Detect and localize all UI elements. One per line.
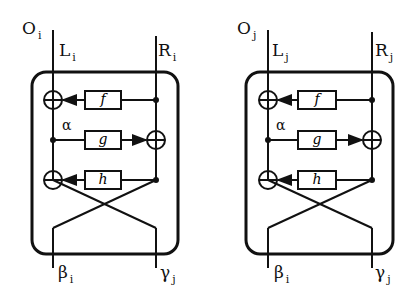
f-box-i: f [80, 91, 126, 107]
alpha-label-j: α [276, 117, 285, 133]
left-output-label-i: βi [58, 262, 73, 286]
right-output-label-j: γj [375, 262, 391, 286]
right-input-label-i: Ri [158, 40, 176, 64]
right-output-label-i: γj [160, 262, 176, 286]
right-input-label-j: Rj [375, 40, 393, 64]
unit-j [246, 30, 393, 268]
unit-name-i: Oi [22, 18, 41, 42]
f-box-j: f [294, 91, 340, 107]
left-output-label-j: βi [274, 262, 289, 286]
h-box-i: h [80, 171, 126, 187]
h-box-j: h [294, 171, 340, 187]
alpha-label-i: α [62, 117, 71, 133]
g-box-i: g [80, 131, 126, 147]
unit-name-j: Oj [237, 18, 256, 42]
left-input-label-j: Lj [272, 40, 289, 64]
left-input-label-i: Li [59, 40, 76, 64]
g-box-j: g [294, 131, 340, 147]
